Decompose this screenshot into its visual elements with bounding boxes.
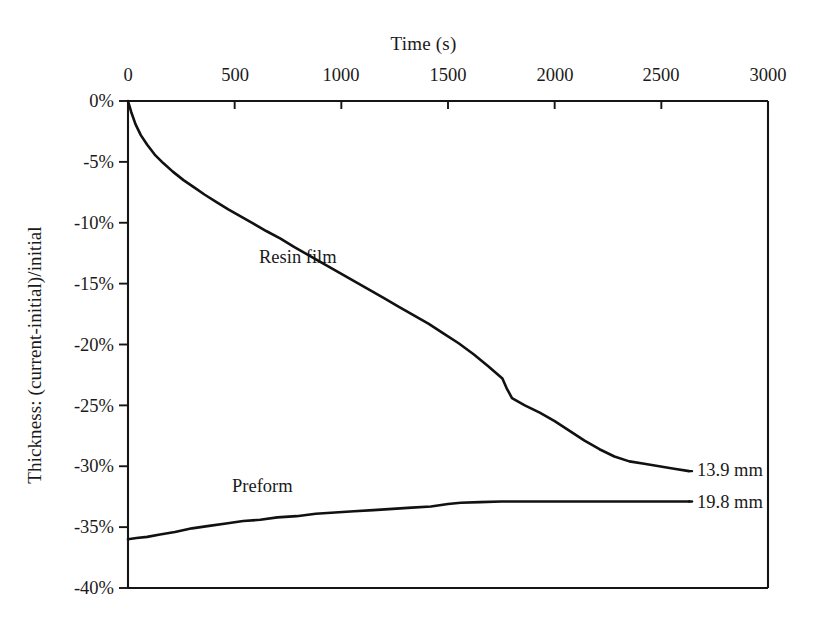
series-line-resin-film (128, 101, 689, 471)
leader-lines (689, 471, 692, 501)
x-tick-marks (128, 101, 768, 109)
chart-figure: Time (s) Thickness: (current-initial)/in… (0, 0, 817, 629)
y-tick-marks (119, 101, 128, 588)
plot-area (0, 0, 817, 629)
axis-frame (128, 101, 768, 588)
series-line-preform (128, 502, 689, 540)
series-layer (128, 101, 689, 539)
